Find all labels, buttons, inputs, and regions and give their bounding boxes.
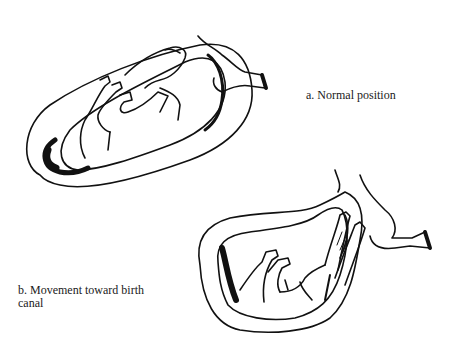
- caption-movement-toward-birth-canal: b. Movement toward birth canal: [18, 284, 158, 310]
- foaling-position-figure: a. Normal position b. Movement toward bi…: [0, 0, 454, 347]
- panel-b-drawing: [199, 170, 430, 332]
- caption-b-line-2: canal: [18, 297, 158, 310]
- caption-normal-position: a. Normal position: [306, 89, 396, 102]
- panel-a-drawing: [27, 36, 266, 187]
